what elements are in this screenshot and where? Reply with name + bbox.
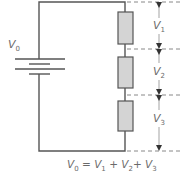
v1-label: V1 [153, 19, 165, 34]
source-voltage-label: V0 [8, 38, 20, 53]
battery-icon [15, 59, 65, 74]
series-circuit-diagram: V0 V1 V2 V3 V0 = V1 + V2+ V3 [0, 0, 182, 176]
voltage-equation: V0 = V1 + V2+ V3 [67, 158, 157, 173]
v2-label: V2 [153, 65, 165, 80]
resistor-3 [118, 101, 133, 131]
resistor-1 [118, 12, 133, 44]
circuit-wires [39, 2, 125, 151]
resistor-2 [118, 57, 133, 88]
v3-label: V3 [153, 112, 165, 127]
